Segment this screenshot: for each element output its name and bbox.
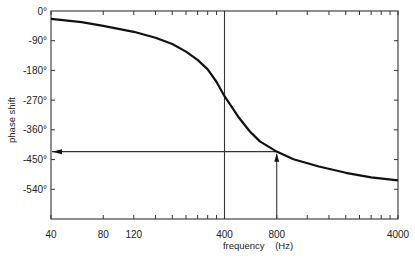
x-tick-label: 80 (98, 229, 110, 240)
x-tick-label: 4000 (387, 229, 410, 240)
y-tick-label: -180° (23, 65, 47, 76)
x-axis-label: frequency (Hz) (223, 240, 293, 251)
y-tick-label: 0° (37, 6, 47, 17)
x-tick-label: 120 (125, 229, 142, 240)
phase-shift-chart: 40801204008004000 0°-90°-180°-270°-360°-… (0, 0, 415, 265)
y-tick-label: -360° (23, 124, 47, 135)
arrow-head-icon (52, 149, 62, 154)
arrow-head-icon (274, 154, 279, 162)
x-tick-label: 800 (268, 229, 285, 240)
y-tick-label: -540° (23, 184, 47, 195)
y-axis-ticks: 0°-90°-180°-270°-360°-450°-540° (23, 6, 398, 195)
y-tick-label: -270° (23, 95, 47, 106)
y-axis-label: phase shift (6, 97, 17, 143)
x-axis-ticks: 40801204008004000 (45, 11, 409, 240)
x-tick-label: 40 (45, 229, 57, 240)
x-tick-label: 400 (216, 229, 233, 240)
y-tick-label: -450° (23, 154, 47, 165)
y-tick-label: -90° (29, 35, 47, 46)
